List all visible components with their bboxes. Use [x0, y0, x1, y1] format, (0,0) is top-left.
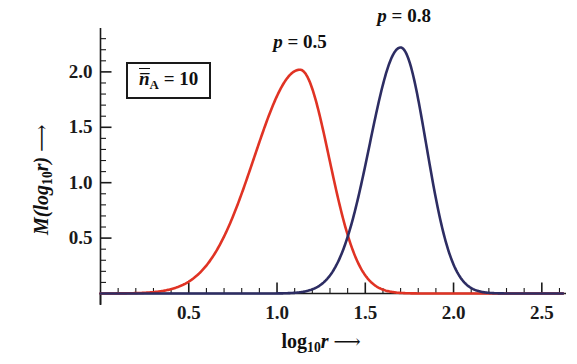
- series-label-value: 0.8: [407, 5, 431, 26]
- chart-figure: 0.51.01.52.02.5 0.51.01.52.0 p = 0.5p = …: [0, 0, 577, 364]
- x-axis-arrow-icon: ⟶: [333, 331, 358, 352]
- series-label-0-5: p = 0.5: [273, 31, 327, 53]
- series-curve-p-0-5: [101, 70, 564, 294]
- series-label-value: 0.5: [303, 31, 327, 52]
- series-label-equals: =: [387, 5, 407, 26]
- x-axis-tick-label: 2.5: [530, 302, 554, 324]
- n-bar-subscript: A: [150, 77, 159, 92]
- x-axis-label: log10r ⟶: [230, 330, 410, 356]
- series-label-0-8: p = 0.8: [377, 5, 431, 27]
- y-axis-label-var: r): [30, 157, 52, 171]
- x-axis-tick-label: 1.0: [265, 302, 289, 324]
- x-axis-tick-label: 2.0: [442, 302, 466, 324]
- x-axis-tick-label: 1.5: [353, 302, 377, 324]
- x-axis-label-var: r: [321, 330, 329, 352]
- x-axis-tick-label: 0.5: [177, 302, 201, 324]
- y-axis-arrow-icon: ⟶: [31, 127, 52, 152]
- y-axis-label-subscript: 10: [40, 171, 55, 185]
- series-label-symbol: p: [377, 5, 387, 26]
- x-axis-label-text: log: [282, 330, 308, 352]
- y-axis-ticks: [101, 39, 112, 283]
- n-bar-symbol: n̅: [139, 68, 150, 88]
- y-axis-label-text: M(log: [30, 185, 52, 235]
- y-axis-label: M(log10r) ⟶: [30, 76, 56, 286]
- parameter-value: 10: [179, 68, 198, 89]
- series-label-equals: =: [283, 31, 303, 52]
- x-axis-label-subscript: 10: [307, 340, 321, 355]
- series-label-symbol: p: [273, 31, 283, 52]
- parameter-annotation-box: n̅A = 10: [126, 62, 211, 99]
- equals-sign: =: [159, 68, 179, 89]
